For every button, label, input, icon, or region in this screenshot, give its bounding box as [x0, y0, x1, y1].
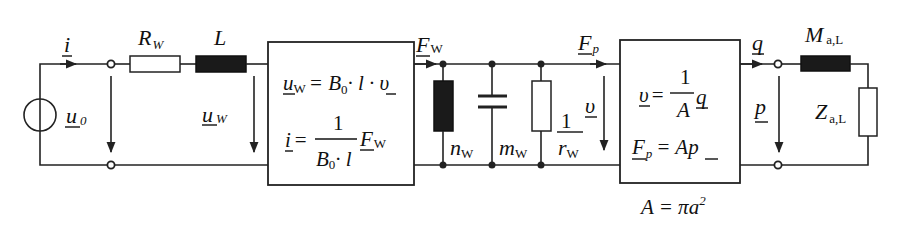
mechanical-section: FW nW mW 1 rW υ Fp	[414, 30, 620, 169]
p-label: p	[753, 94, 766, 119]
mal-label: Ma,L	[804, 22, 843, 47]
rw-den: rW	[558, 135, 580, 161]
mw-label: mW	[499, 135, 528, 161]
circuit-diagram: i u0 RW L uW uW= B0· l · υ i= 1 B0· l FW	[0, 0, 902, 231]
electrical-section: i u0 RW L uW	[24, 25, 268, 169]
area-formula: A = πa2	[639, 193, 706, 219]
fw-label: FW	[415, 32, 443, 57]
compliance-nw	[434, 81, 453, 131]
acoustic-section: q p Ma,L Za,L	[740, 22, 877, 169]
resistor-rw	[130, 56, 180, 72]
inductor-l	[196, 56, 246, 72]
resistor-rw-label: RW	[137, 25, 164, 52]
transducer2-eq1-den: A	[675, 98, 690, 122]
top-wire-source	[40, 64, 111, 99]
transducer2-eq1-num: 1	[680, 65, 691, 89]
acoustic-mass-inductor	[801, 56, 850, 71]
input-terminal-top	[107, 60, 114, 67]
inductor-l-label: L	[213, 25, 226, 50]
zal-label: Za,L	[815, 99, 846, 126]
transducer2-eq1-lhs: υ=	[639, 83, 663, 107]
q-label: q	[752, 30, 763, 55]
transducer2-eq1-var: q	[696, 85, 707, 109]
transducer2-eq2: Fp= Ap	[631, 135, 699, 161]
source-voltage-label: u0	[66, 103, 87, 128]
acoustic-impedance-resistor	[859, 88, 877, 136]
current-label: i	[64, 32, 70, 57]
resistor-rw-mech	[532, 81, 551, 131]
rw-num: 1	[561, 109, 572, 133]
input-terminal-bottom	[107, 161, 114, 168]
transducer1-eq2-num: 1	[333, 111, 344, 135]
output-terminal-top	[774, 60, 781, 67]
velocity-label: υ	[585, 93, 595, 118]
mechanoacoustic-transducer: υ= 1 A q Fp= Ap A = πa2	[620, 40, 740, 219]
nw-label: nW	[450, 135, 474, 161]
uw-label: uW	[202, 102, 228, 127]
bottom-wire-source	[40, 131, 111, 165]
fp-label: Fp	[577, 30, 599, 56]
transducer1-eq2-lhs: i=	[285, 128, 307, 152]
electromechanical-transducer: uW= B0· l · υ i= 1 B0· l FW	[268, 42, 414, 185]
output-terminal-bottom	[774, 161, 781, 168]
